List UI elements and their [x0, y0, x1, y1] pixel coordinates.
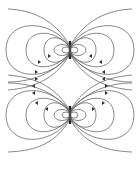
field-lines-svg [0, 0, 138, 170]
arrow-icon [89, 54, 92, 58]
dipole-figure [0, 0, 138, 170]
arrow-icon [35, 70, 38, 74]
arrow-icon [35, 101, 38, 105]
arrow-icon [105, 91, 108, 95]
lower-dipole [6, 75, 134, 152]
arrow-icon [32, 91, 35, 95]
arrow-icon [38, 60, 41, 64]
arrow-icon [102, 101, 105, 105]
arrow-icon [48, 54, 51, 58]
arrow-icon [102, 70, 105, 74]
arrow-icon [99, 60, 102, 64]
